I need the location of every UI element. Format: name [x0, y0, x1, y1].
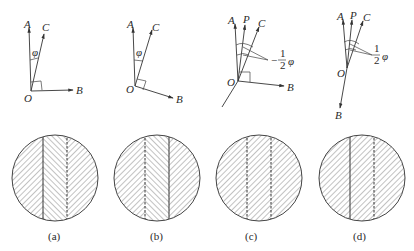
vector-oc — [31, 34, 44, 91]
vector-ob — [135, 86, 173, 98]
label-frac-den: 2 — [280, 59, 286, 71]
label-b: B — [335, 109, 342, 121]
label-frac-num: 1 — [374, 42, 380, 54]
label-p: P — [242, 13, 250, 25]
label-o: O — [126, 83, 134, 95]
vector-diagram-b: A C B O φ — [126, 18, 183, 105]
angle-arc — [134, 60, 143, 61]
domain-circle-b — [114, 130, 200, 225]
domain-circle-c — [216, 130, 302, 225]
label-phi: φ — [32, 46, 38, 58]
vector-diagram-a: A C B O φ — [23, 18, 83, 104]
angle-arc-outer — [344, 40, 359, 44]
angle-arc-outer — [236, 43, 253, 47]
vector-diagram-d: A P C B O 1 2 φ — [335, 9, 388, 121]
vector-oa — [343, 20, 347, 68]
label-frac-den: 2 — [374, 54, 380, 66]
label-a: A — [23, 18, 31, 30]
label-a: A — [126, 18, 134, 30]
angle-arc — [30, 58, 38, 60]
vector-ob — [238, 81, 284, 86]
label-phi: φ — [288, 55, 294, 67]
vector-diagram-c: A P C B O − 1 2 φ — [222, 13, 294, 107]
figure-canvas: A C B O φ A C B O φ A P C B O − 1 — [0, 0, 414, 251]
label-phi: φ — [136, 46, 142, 58]
label-a: A — [336, 10, 344, 22]
label-o: O — [337, 67, 345, 79]
domain-circle-d — [319, 130, 405, 225]
label-c: C — [258, 17, 266, 29]
hatch-region-middle — [145, 135, 169, 221]
label-b: B — [287, 81, 294, 93]
label-b: B — [76, 84, 83, 96]
label-o: O — [227, 76, 235, 88]
hatch-region-right — [169, 135, 200, 221]
label-p: P — [349, 9, 357, 21]
vector-oc — [135, 30, 152, 86]
domain-circle-a — [12, 130, 98, 225]
hatch-region-left — [12, 135, 43, 221]
caption-c: (c) — [245, 230, 258, 243]
vector-ob — [31, 90, 73, 91]
label-c: C — [152, 21, 160, 33]
label-c: C — [363, 11, 371, 23]
label-c: C — [42, 21, 50, 33]
label-a: A — [227, 14, 235, 26]
hatch-region-middle — [43, 135, 67, 221]
angle-arc-inner — [237, 54, 249, 56]
label-frac-num: 1 — [280, 47, 286, 59]
label-b: B — [176, 93, 183, 105]
label-phi: φ — [382, 50, 388, 62]
leader-line-2 — [350, 50, 372, 55]
caption-b: (b) — [150, 230, 163, 243]
vector-oa — [133, 28, 135, 86]
caption-a: (a) — [48, 230, 61, 243]
vector-oa — [235, 24, 238, 81]
hatch-region-left — [114, 135, 145, 221]
label-minus: − — [271, 54, 277, 66]
hatch-region-right — [67, 135, 98, 221]
caption-d: (d) — [353, 230, 366, 243]
label-o: O — [24, 92, 32, 104]
